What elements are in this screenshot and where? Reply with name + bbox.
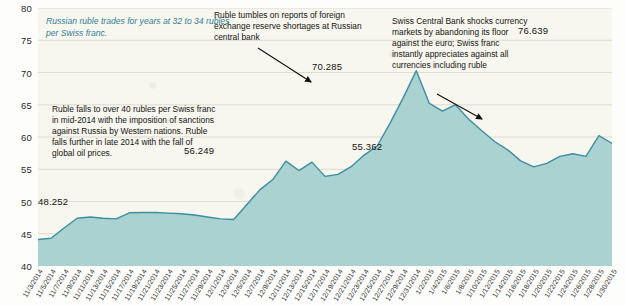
data-label-48252: 48.252	[38, 196, 68, 207]
y-axis-tick-label: 40	[21, 261, 32, 272]
data-label-56249: 56.249	[184, 145, 214, 156]
y-axis-tick-label: 55	[21, 164, 32, 175]
y-axis-tick-label: 60	[21, 132, 32, 143]
data-label-70285: 70.285	[312, 61, 342, 72]
y-axis-tick-label: 65	[21, 99, 32, 110]
data-label-76639: 76.639	[518, 25, 548, 36]
chart-screenshot: 807570656055504540 11/3/201411/5/201411/…	[0, 0, 625, 306]
y-axis-tick-label: 75	[21, 35, 32, 46]
x-axis: 11/3/201411/5/201411/7/201411/9/201411/1…	[38, 268, 612, 306]
data-label-55362: 55.362	[352, 141, 382, 152]
y-axis-tick-label: 70	[21, 67, 32, 78]
annotation-intro: Russian ruble trades for years at 32 to …	[46, 16, 236, 39]
y-axis-tick-label: 50	[21, 196, 32, 207]
y-axis: 807570656055504540	[0, 0, 36, 266]
annotation-swiss-central-bank: Swiss Central Bank shocks currency marke…	[392, 16, 532, 71]
annotation-ruble-tumbles: Ruble tumbles on reports of foreign exch…	[214, 10, 364, 43]
area-fill	[38, 71, 612, 266]
y-axis-tick-label: 80	[21, 3, 32, 14]
y-axis-tick-label: 45	[21, 228, 32, 239]
